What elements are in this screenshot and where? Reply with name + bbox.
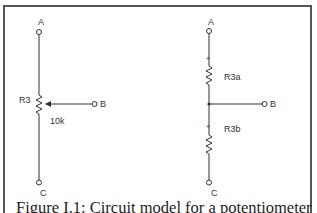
label-b-right: B [270, 99, 276, 109]
potentiometer-circuit [36, 30, 97, 186]
split-resistor-circuit [206, 29, 267, 186]
terminal-b-node [92, 102, 97, 107]
terminal-a-node [207, 29, 212, 34]
circuit-diagram: A R3 B 10k C + + A R3a B R3b C [0, 0, 317, 213]
figure-caption: Figure I.1: Circuit model for a potentio… [16, 198, 312, 213]
label-r3: R3 [19, 95, 31, 105]
resistor-r3b-icon [206, 135, 212, 154]
label-10k: 10k [50, 116, 65, 126]
resistor-r3a-icon [206, 66, 212, 85]
polarity-plus-a: + [206, 55, 210, 62]
junction-dot [207, 102, 210, 105]
terminal-b-node [262, 102, 267, 107]
label-a-right: A [208, 17, 214, 27]
terminal-a-node [37, 30, 42, 35]
terminal-c-node [37, 180, 42, 185]
label-c-right: C [211, 188, 218, 198]
label-b-left: B [100, 99, 106, 109]
resistor-r3-icon [36, 95, 42, 114]
label-c-left: C [40, 188, 47, 198]
label-r3a: R3a [224, 72, 241, 82]
polarity-plus-b: + [206, 123, 210, 130]
label-r3b: R3b [224, 124, 241, 134]
label-a-left: A [38, 17, 44, 27]
terminal-c-node [207, 180, 212, 185]
